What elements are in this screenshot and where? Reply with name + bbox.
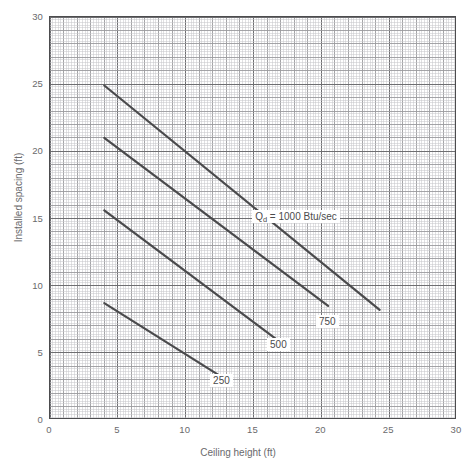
y-tick-label: 30 [23, 11, 43, 22]
series-label-750: 750 [316, 315, 339, 328]
series-label-1000: Qd = 1000 Btu/sec [252, 210, 340, 223]
x-axis-title: Ceiling height (ft) [0, 447, 476, 458]
figure-caption [40, 465, 470, 473]
chart-figure: Installed spacing (ft) 051015202530 Qd =… [0, 0, 476, 473]
x-tick-label: 0 [46, 424, 51, 435]
y-tick-label: 0 [23, 414, 43, 425]
x-tick-label: 25 [383, 424, 394, 435]
y-tick-label: 20 [23, 145, 43, 156]
x-tick-label: 10 [179, 424, 190, 435]
y-tick-label: 5 [23, 346, 43, 357]
y-tick-label: 15 [23, 212, 43, 223]
curve-250 [104, 303, 219, 376]
y-tick-label: 10 [23, 279, 43, 290]
y-axis-title: Installed spacing (ft) [13, 108, 24, 288]
x-tick-label: 15 [247, 424, 258, 435]
x-tick-label: 5 [114, 424, 119, 435]
curve-1000 [104, 86, 379, 310]
series-label-500: 500 [267, 338, 290, 351]
x-tick-label: 20 [315, 424, 326, 435]
series-label-250: 250 [210, 374, 233, 387]
y-tick-label: 25 [23, 78, 43, 89]
x-tick-label: 30 [451, 424, 462, 435]
plot-area: Qd = 1000 Btu/sec750500250 [49, 16, 456, 419]
